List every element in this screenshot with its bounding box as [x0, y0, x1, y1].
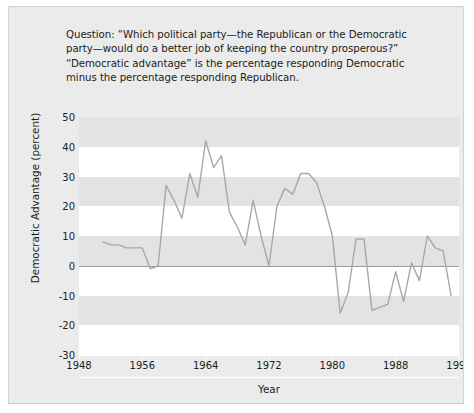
series-polyline: [103, 141, 451, 314]
y-axis-tick-label: 20: [31, 201, 75, 212]
y-axis-tick-labels: 50403020100-10-20-30: [23, 117, 75, 355]
y-axis-tick-label: 10: [31, 231, 75, 242]
y-axis-tick-label: -10: [31, 290, 75, 301]
y-axis-tick-label: 30: [31, 171, 75, 182]
x-axis-tick-mark: [332, 355, 333, 359]
x-axis-tick-mark: [459, 355, 460, 359]
caption-line-1: Question: “Which political party—the Rep…: [66, 28, 458, 42]
figure-caption: Question: “Which political party—the Rep…: [66, 28, 458, 85]
x-axis-tick-mark: [206, 355, 207, 359]
x-axis-tick-label: 1948: [49, 360, 109, 371]
x-axis-tick-label: 1964: [176, 360, 236, 371]
y-axis-tick-label: 0: [31, 260, 75, 271]
plot-area: [79, 117, 459, 355]
caption-line-2: party—would do a better job of keeping t…: [66, 42, 458, 56]
y-axis-tick-label: -30: [31, 350, 75, 361]
x-axis-baseline-rule: [79, 377, 459, 378]
y-axis-tick-label: 50: [31, 112, 75, 123]
caption-line-3: “Democratic advantage” is the percentage…: [66, 57, 458, 71]
x-axis-tick-mark: [269, 355, 270, 359]
caption-line-4: minus the percentage responding Republic…: [66, 71, 458, 85]
figure-panel: Question: “Which political party—the Rep…: [8, 6, 464, 404]
x-axis-tick-label: 1980: [302, 360, 362, 371]
x-axis-tick-mark: [396, 355, 397, 359]
x-axis-tick-mark: [79, 355, 80, 359]
x-axis-tick-label: 1956: [112, 360, 172, 371]
x-axis-ticks: 1948195619641972198019881996: [79, 355, 459, 377]
x-axis-tick-mark: [142, 355, 143, 359]
series-line-chart: [79, 117, 459, 355]
x-axis-tick-label: 1996: [429, 360, 464, 371]
y-axis-tick-label: 40: [31, 141, 75, 152]
x-axis-tick-label: 1972: [239, 360, 299, 371]
y-axis-tick-label: -20: [31, 320, 75, 331]
x-axis-title: Year: [79, 383, 459, 395]
x-axis-tick-label: 1988: [366, 360, 426, 371]
